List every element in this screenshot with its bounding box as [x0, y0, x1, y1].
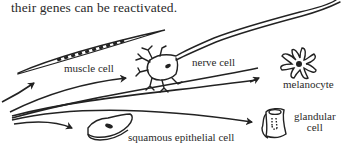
glandular-cell-label-line2: cell: [294, 122, 336, 133]
melanocyte-icon: [281, 48, 316, 79]
nerve-cell-label: nerve cell: [192, 57, 235, 68]
cell-differentiation-illustration: [0, 0, 341, 146]
glandular-cell-label: glandular cell: [294, 111, 336, 133]
glandular-cell-icon: [262, 109, 286, 138]
squamous-epithelial-cell-icon: [88, 114, 132, 140]
squamous-epithelial-cell-label: squamous epithelial cell: [128, 132, 234, 143]
arrow-to-squamous-icon: [14, 122, 72, 128]
muscle-cell-label: muscle cell: [64, 63, 114, 74]
arrow-to-muscle-icon: [2, 83, 34, 102]
melanocyte-label: melanocyte: [283, 79, 334, 90]
